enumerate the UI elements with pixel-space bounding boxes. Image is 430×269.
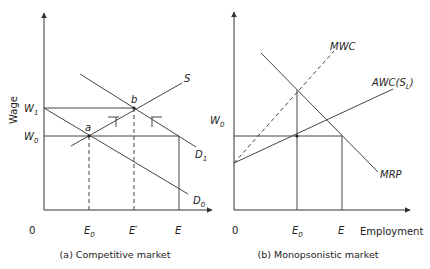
w0-label-b: W0: [210, 115, 225, 129]
caption-competitive-market: (a) Competitive market: [60, 249, 171, 260]
y-axis-label-wage: Wage: [8, 96, 19, 124]
mwc-curve: [234, 51, 334, 163]
e0-label-b: E0: [292, 225, 303, 239]
awc-supply-curve: [234, 89, 393, 163]
eprime-label: E′: [129, 225, 138, 236]
point-a-label: a: [85, 122, 91, 133]
mrp-label: MRP: [380, 169, 403, 180]
shift-markers: [108, 117, 162, 127]
s-label: S: [184, 73, 191, 84]
equilibrium-point-b: [295, 134, 298, 137]
w1-label: W1: [24, 103, 38, 117]
point-a-marker: [87, 134, 90, 137]
d1-label: D1: [195, 149, 207, 163]
e-label-b: E: [338, 225, 345, 236]
point-b-label: b: [131, 94, 137, 105]
origin-label-a: 0: [29, 225, 35, 236]
panel-competitive-market: Wage 0 a b S D1 D0: [8, 13, 212, 260]
d0-label: D0: [193, 195, 206, 209]
e0-label-a: E0: [84, 225, 95, 239]
labour-market-diagram: Wage 0 a b S D1 D0: [0, 0, 430, 269]
caption-monopsonistic-market: (b) Monopsonistic market: [257, 249, 378, 260]
origin-label-b: 0: [232, 225, 238, 236]
mwc-label: MWC: [330, 41, 356, 52]
x-axis-label-employment: Employment: [360, 226, 423, 237]
mrp-curve: [261, 53, 378, 172]
panel-monopsonistic-market: 0 MWC AWC(SL) MRP W0 E0 E Employment (b)…: [210, 12, 423, 260]
w0-label-a: W0: [24, 131, 39, 145]
e-label-a: E: [175, 225, 182, 236]
point-b-marker: [132, 106, 135, 109]
